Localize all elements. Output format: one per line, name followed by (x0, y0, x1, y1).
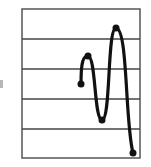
wave-curve (81, 28, 133, 153)
point-trough (99, 117, 106, 124)
point-start (78, 81, 85, 88)
wave-diagram (0, 0, 151, 167)
point-peak-2 (113, 25, 120, 32)
point-end (130, 150, 137, 157)
point-peak-1 (85, 53, 92, 60)
